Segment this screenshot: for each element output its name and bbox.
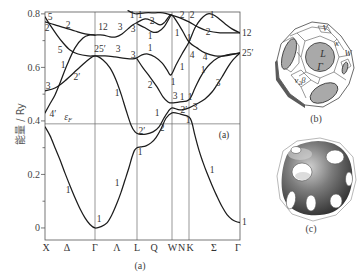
y-tick-label: 0.4 bbox=[28, 115, 41, 126]
band-label: 3 bbox=[193, 102, 198, 112]
y-axis-label: 能量 / Ry bbox=[14, 103, 26, 145]
band-label: 1 bbox=[180, 62, 185, 72]
band-label: 12 bbox=[98, 22, 108, 32]
band-label: 4 bbox=[203, 52, 208, 62]
fermi-surface-neck-hole bbox=[330, 194, 342, 208]
band-label: 1 bbox=[115, 88, 120, 98]
bz-label-l: L bbox=[319, 48, 326, 59]
x-tick-label: K bbox=[186, 242, 194, 253]
x-tick-label: X bbox=[42, 242, 50, 253]
band-label: 4′ bbox=[50, 109, 57, 119]
band-curve-band-5 bbox=[45, 14, 240, 75]
x-tick-label: N bbox=[178, 242, 185, 253]
band-label: 1 bbox=[66, 185, 71, 195]
band-label: 5 bbox=[58, 45, 63, 55]
band-label: 2 bbox=[148, 80, 153, 90]
x-tick-label: Λ bbox=[113, 242, 121, 253]
x-tick-label: Σ bbox=[211, 242, 217, 253]
band-label: 1 bbox=[155, 108, 160, 118]
fermi-level-subscript: F bbox=[67, 116, 73, 123]
bz-label-nu-beta: ν₂β bbox=[295, 75, 307, 85]
band-label: 2′ bbox=[74, 72, 81, 82]
bz-label-w: W bbox=[344, 48, 352, 58]
band-label: 1 bbox=[188, 92, 193, 102]
y-tick-label: 0.2 bbox=[28, 169, 41, 180]
band-label: 1 bbox=[97, 214, 102, 224]
x-tick-label: Δ bbox=[64, 242, 71, 253]
band-label: 2 bbox=[180, 10, 185, 20]
band-label: 3 bbox=[131, 50, 136, 60]
band-label: 1 bbox=[138, 147, 143, 157]
band-label: 1 bbox=[148, 43, 153, 53]
band-label: 2 bbox=[206, 27, 211, 37]
band-label: 1 bbox=[186, 115, 191, 125]
band-label: 3 bbox=[131, 24, 136, 34]
x-tick-label: Γ bbox=[92, 242, 98, 253]
fermi-surface-neck-hole bbox=[326, 150, 344, 164]
fermi-surface-neck-hole bbox=[291, 147, 301, 154]
band-label: 3 bbox=[116, 44, 121, 54]
figure: 00.20.40.60.8XΔΓΛLQWNKΣΓ522512′34′111123… bbox=[0, 0, 364, 280]
band-structure-chart: 00.20.40.60.8XΔΓΛLQWNKΣΓ522512′34′111123… bbox=[28, 8, 254, 252]
band-label: 25′ bbox=[94, 44, 106, 54]
fermi-surface-image bbox=[277, 138, 356, 221]
band-label: 1 bbox=[171, 77, 176, 87]
band-label: 1 bbox=[180, 92, 185, 102]
panel-a-inner-label: (a) bbox=[219, 130, 230, 141]
band-label: 2 bbox=[66, 20, 71, 30]
band-label: 1 bbox=[210, 165, 215, 175]
band-label: 12 bbox=[242, 28, 252, 38]
band-label: 2 bbox=[160, 123, 165, 133]
band-label: 2 bbox=[45, 23, 50, 33]
band-label: 1 bbox=[187, 33, 192, 43]
fermi-surface-neck-hole bbox=[346, 172, 353, 186]
band-label: 1 bbox=[61, 60, 66, 70]
band-label: 1 bbox=[210, 10, 215, 20]
band-label: 2 bbox=[190, 10, 195, 20]
fermi-surface-neck-hole bbox=[306, 195, 316, 211]
neck-hole-shading bbox=[295, 172, 311, 180]
band-label: 1 bbox=[175, 28, 180, 38]
band-label: 3 bbox=[46, 81, 51, 91]
panel-b-caption: (b) bbox=[310, 113, 322, 125]
band-label: 25′ bbox=[242, 48, 254, 58]
x-tick-label: W bbox=[168, 242, 178, 253]
y-tick-label: 0.8 bbox=[28, 8, 41, 19]
band-label: 2′ bbox=[181, 105, 188, 115]
x-tick-label: Γ bbox=[235, 242, 241, 253]
band-label: 3 bbox=[173, 91, 178, 101]
fermi-level-label: εF bbox=[64, 112, 73, 123]
band-label: 4 bbox=[190, 50, 195, 60]
x-tick-label: Q bbox=[150, 242, 158, 253]
band-label: 2′ bbox=[139, 126, 146, 136]
bz-label-gamma: Γ bbox=[316, 61, 323, 72]
y-tick-label: 0 bbox=[35, 222, 40, 233]
band-label: 1 bbox=[148, 31, 153, 41]
band-label: 3 bbox=[118, 22, 123, 32]
band-label: 3 bbox=[216, 78, 221, 88]
brillouin-zone-diagram: V κ W L Γ ν₂β bbox=[275, 22, 354, 108]
band-label: 2 bbox=[150, 16, 155, 26]
y-tick-label: 0.6 bbox=[28, 62, 41, 73]
band-label: 5 bbox=[48, 12, 53, 22]
band-curve-band-2 bbox=[45, 53, 240, 134]
band-label: 1 bbox=[115, 178, 120, 188]
band-label: 1 bbox=[130, 10, 135, 20]
band-curves bbox=[45, 11, 240, 228]
band-label: 1 bbox=[201, 65, 206, 75]
band-label: 1 bbox=[138, 10, 143, 20]
panel-c-caption: (c) bbox=[305, 223, 316, 235]
band-label: 1 bbox=[242, 217, 247, 227]
panel-a-caption: (a) bbox=[134, 260, 145, 272]
x-tick-label: L bbox=[134, 242, 140, 253]
